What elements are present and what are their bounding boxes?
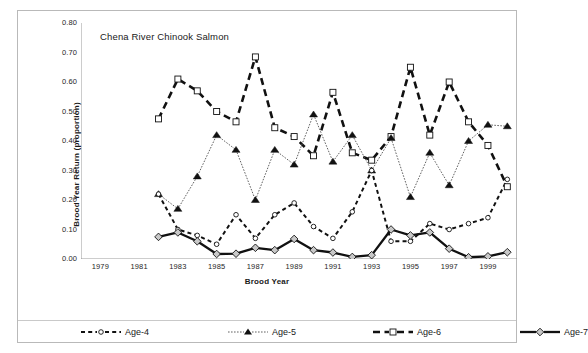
legend-key-age-6-icon <box>372 325 414 339</box>
x-axis-tick-label: 1989 <box>286 262 303 271</box>
data-point-age-5 <box>290 161 298 167</box>
data-point-age-4 <box>272 212 277 217</box>
data-point-age-6 <box>446 79 452 85</box>
data-point-age-6 <box>252 54 258 60</box>
legend-key-age-5-icon <box>227 325 269 339</box>
x-axis-tick-label: 1979 <box>92 262 109 271</box>
data-point-age-4 <box>350 210 355 215</box>
y-axis-tick-label: 0.70 <box>62 49 77 57</box>
y-axis-tick-label: 0.80 <box>62 19 77 27</box>
x-axis-title: Brood Year <box>0 277 534 286</box>
data-point-age-7 <box>348 253 356 259</box>
data-point-age-4 <box>311 224 316 229</box>
legend-item-age-5[interactable]: Age-5 <box>227 325 296 339</box>
data-point-age-5 <box>213 132 221 138</box>
data-point-age-6 <box>291 134 297 140</box>
data-point-age-7 <box>232 250 240 258</box>
chart-legend: Age-4Age-5Age-6Age-7 <box>18 320 516 343</box>
data-point-age-6 <box>214 109 220 115</box>
legend-label: Age-6 <box>416 327 441 337</box>
legend-marker-age-5-icon <box>244 329 252 335</box>
data-point-age-4 <box>214 242 219 247</box>
legend-label: Age-7 <box>563 327 588 337</box>
data-point-age-6 <box>156 116 162 122</box>
data-point-age-6 <box>407 64 413 70</box>
legend-item-age-6[interactable]: Age-6 <box>372 325 441 339</box>
plot-area <box>81 23 517 259</box>
x-axis-tick-label: 1985 <box>208 262 225 271</box>
data-point-age-4 <box>369 168 374 173</box>
data-point-age-4 <box>156 192 161 197</box>
x-axis-tick-labels: 1979198119831985198719891991199319951997… <box>0 262 534 276</box>
data-point-age-7 <box>465 253 473 259</box>
data-point-age-5 <box>465 138 473 144</box>
data-point-age-5 <box>329 158 337 164</box>
x-axis-tick-label: 1997 <box>441 262 458 271</box>
data-point-age-5 <box>232 146 240 152</box>
data-point-age-4 <box>389 239 394 244</box>
legend-item-age-4[interactable]: Age-4 <box>80 325 149 339</box>
data-point-age-5 <box>271 146 279 152</box>
x-axis-tick-label: 1981 <box>131 262 148 271</box>
data-point-age-6 <box>330 89 336 95</box>
legend-item-age-7[interactable]: Age-7 <box>519 325 588 339</box>
y-axis-tick-label: 0.20 <box>62 196 77 204</box>
y-axis-tick-label: 0.10 <box>62 226 77 234</box>
data-point-age-6 <box>466 119 472 125</box>
chart-svg <box>81 23 517 259</box>
data-point-age-6 <box>485 142 491 148</box>
y-axis-tick-label: 0.40 <box>62 137 77 145</box>
data-point-age-7 <box>252 244 260 252</box>
legend-marker-age-4-icon <box>99 330 104 335</box>
data-point-age-5 <box>193 173 201 179</box>
legend-marker-age-6-icon <box>390 329 396 335</box>
data-point-age-6 <box>311 153 317 159</box>
data-point-age-6 <box>349 150 355 156</box>
data-point-age-7 <box>504 248 512 256</box>
data-point-age-7 <box>155 233 163 241</box>
y-axis-tick-label: 0.50 <box>62 108 77 116</box>
data-point-age-6 <box>504 184 510 190</box>
data-point-age-4 <box>331 236 336 241</box>
y-axis-tick-label: 0.30 <box>62 167 77 175</box>
y-axis-tick-labels: 0.800.700.600.500.400.300.200.100.00 <box>44 0 77 280</box>
data-point-age-4 <box>466 221 471 226</box>
y-axis-tick-label: 0.60 <box>62 78 77 86</box>
legend-label: Age-4 <box>124 327 149 337</box>
data-point-age-6 <box>272 125 278 131</box>
x-axis-tick-label: 1995 <box>402 262 419 271</box>
data-point-age-4 <box>486 215 491 220</box>
data-point-age-4 <box>253 236 258 241</box>
data-point-age-4 <box>292 201 297 206</box>
data-point-age-6 <box>427 132 433 138</box>
data-point-age-7 <box>407 232 415 240</box>
data-point-age-7 <box>329 249 337 257</box>
legend-key-age-4-icon <box>80 325 122 339</box>
data-point-age-5 <box>406 194 414 200</box>
data-point-age-4 <box>505 177 510 182</box>
data-point-age-5 <box>445 182 453 188</box>
x-axis-tick-label: 1999 <box>479 262 496 271</box>
series-line-age-4 <box>159 171 508 245</box>
data-point-age-6 <box>194 88 200 94</box>
data-point-age-5 <box>174 205 182 211</box>
x-axis-tick-label: 1991 <box>324 262 341 271</box>
data-point-age-5 <box>484 121 492 127</box>
data-point-age-5 <box>348 132 356 138</box>
x-axis-tick-label: 1983 <box>169 262 186 271</box>
legend-marker-age-7-icon <box>536 328 544 336</box>
data-point-age-6 <box>369 157 375 163</box>
data-point-age-5 <box>310 111 318 117</box>
data-point-age-4 <box>234 212 239 217</box>
x-axis-tick-label: 1987 <box>247 262 264 271</box>
data-point-age-4 <box>447 227 452 232</box>
data-point-age-5 <box>251 197 259 203</box>
data-point-age-6 <box>175 76 181 82</box>
data-point-age-5 <box>426 149 434 155</box>
data-point-age-7 <box>484 253 492 259</box>
series-line-age-6 <box>159 57 508 187</box>
legend-label: Age-5 <box>271 327 296 337</box>
data-point-age-4 <box>428 221 433 226</box>
data-point-age-6 <box>233 119 239 125</box>
